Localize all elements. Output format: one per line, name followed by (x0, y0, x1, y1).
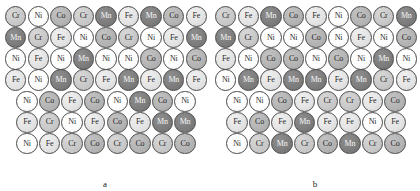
atom-symbol: Mn (265, 12, 276, 20)
atom-fe: Fe (294, 91, 315, 112)
atom-symbol: Mn (55, 76, 66, 84)
atom-co: Co (140, 48, 161, 69)
atom-symbol: Cr (80, 76, 88, 84)
atom-ni: Ni (226, 91, 247, 112)
atom-symbol: Fe (12, 76, 20, 84)
atom-fe: Fe (362, 91, 383, 112)
atom-cr: Cr (73, 69, 94, 90)
atom-mn: Mn (294, 112, 315, 133)
atom-ni: Ni (215, 69, 236, 90)
atom-symbol: Cr (346, 97, 354, 105)
atom-mn: Mn (95, 6, 116, 27)
atom-symbol: Co (289, 55, 298, 63)
atom-symbol: Mn (157, 118, 168, 126)
lattice-grid-b: CrFeMnCoFeNiCoCrMnMnCrNiNiCoNiFeNiCoFeNi… (210, 0, 420, 170)
atom-mn: Mn (140, 6, 161, 27)
atom-co: Co (152, 91, 173, 112)
atom-cr: Cr (28, 27, 49, 48)
atom-cr: Cr (152, 133, 173, 154)
atom-symbol: Ni (380, 34, 388, 42)
atom-mn: Mn (73, 48, 94, 69)
atom-symbol: Mn (356, 76, 367, 84)
atom-co: Co (283, 6, 304, 27)
atom-symbol: Fe (312, 12, 320, 20)
atom-symbol: Fe (369, 97, 377, 105)
atom-symbol: Ni (125, 55, 133, 63)
atom-symbol: Fe (193, 12, 201, 20)
atom-symbol: Co (90, 140, 99, 148)
atom-symbol: Ni (335, 12, 343, 20)
atom-symbol: Cr (301, 140, 309, 148)
atom-mn: Mn (373, 48, 394, 69)
atom-symbol: Fe (57, 34, 65, 42)
atom-symbol: Co (135, 140, 144, 148)
atom-cr: Cr (73, 6, 94, 27)
atom-ni: Ni (362, 112, 383, 133)
atom-symbol: Mn (168, 76, 179, 84)
atom-co: Co (129, 133, 150, 154)
atom-co: Co (174, 133, 195, 154)
atom-symbol: Ni (357, 55, 365, 63)
atom-symbol: Co (45, 97, 54, 105)
atom-symbol: Co (334, 55, 343, 63)
atom-mn: Mn (174, 112, 195, 133)
atom-symbol: Ni (335, 34, 343, 42)
atom-symbol: Mn (401, 12, 412, 20)
atom-symbol: Co (102, 34, 111, 42)
atom-symbol: Co (255, 118, 264, 126)
atom-ni: Ni (28, 69, 49, 90)
atom-symbol: Mn (243, 76, 254, 84)
atom-symbol: Ni (256, 97, 264, 105)
atom-mn: Mn (350, 69, 371, 90)
atom-symbol: Fe (403, 76, 411, 84)
atom-symbol: Mn (191, 34, 202, 42)
atom-symbol: Ni (312, 55, 320, 63)
atom-mn: Mn (50, 69, 71, 90)
atom-cr: Cr (39, 112, 60, 133)
atom-symbol: Fe (68, 97, 76, 105)
atom-symbol: Co (357, 12, 366, 20)
atom-symbol: Fe (391, 118, 399, 126)
atom-mn: Mn (260, 6, 281, 27)
atom-fe: Fe (50, 27, 71, 48)
atom-symbol: Cr (369, 140, 377, 148)
atom-fe: Fe (350, 27, 371, 48)
atom-symbol: Ni (102, 55, 110, 63)
atom-fe: Fe (384, 112, 405, 133)
atom-cr: Cr (373, 6, 394, 27)
atom-fe: Fe (16, 112, 37, 133)
lattice-row: MnCrNiNiCoNiFeNiCo (215, 26, 418, 49)
atom-symbol: Co (312, 34, 321, 42)
atom-symbol: Cr (12, 12, 20, 20)
atom-ni: Ni (238, 48, 259, 69)
atom-symbol: Co (266, 55, 275, 63)
atom-symbol: Mn (78, 55, 89, 63)
atom-fe: Fe (260, 69, 281, 90)
atom-fe: Fe (84, 112, 105, 133)
atom-symbol: Fe (34, 55, 42, 63)
atom-fe: Fe (39, 133, 60, 154)
atom-fe: Fe (61, 91, 82, 112)
atom-fe: Fe (140, 69, 161, 90)
atom-ni: Ni (373, 27, 394, 48)
atom-symbol: Fe (46, 140, 54, 148)
atom-symbol: Fe (222, 55, 230, 63)
atom-symbol: Cr (80, 12, 88, 20)
atom-mn: Mn (305, 69, 326, 90)
atom-symbol: Cr (46, 118, 54, 126)
atom-symbol: Fe (267, 76, 275, 84)
panel-a: CrNiCoCrMnFeMnCoFeMnCrFeNiCoCrNiFeMnNiFe… (0, 0, 210, 191)
atom-symbol: Cr (125, 34, 133, 42)
atom-fe: Fe (186, 69, 207, 90)
atom-ni: Ni (140, 27, 161, 48)
atom-ni: Ni (328, 27, 349, 48)
atom-mn: Mn (271, 133, 292, 154)
atom-symbol: Cr (244, 34, 252, 42)
atom-symbol: Mn (378, 55, 389, 63)
atom-symbol: Co (113, 118, 122, 126)
atom-symbol: Co (56, 12, 65, 20)
atom-symbol: Cr (34, 34, 42, 42)
atom-cr: Cr (238, 27, 259, 48)
atom-symbol: Ni (114, 97, 122, 105)
atom-symbol: Co (90, 97, 99, 105)
